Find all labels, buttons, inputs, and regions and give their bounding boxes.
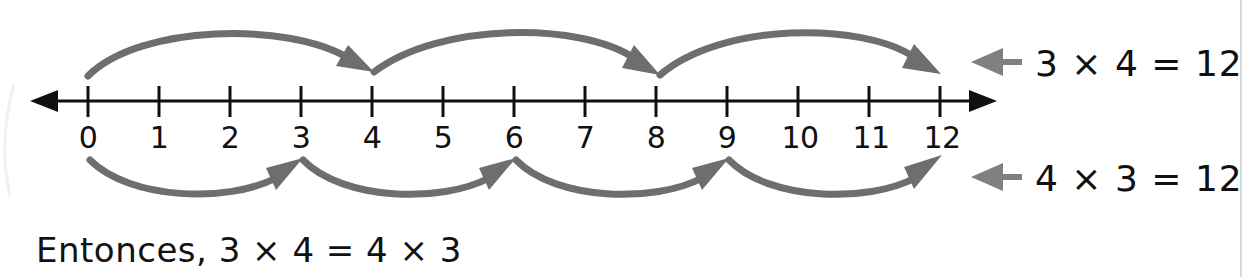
arc-path xyxy=(729,160,915,194)
tick-label-11: 11 xyxy=(852,120,889,155)
arc-path xyxy=(303,160,489,194)
arc-path xyxy=(374,33,634,72)
top-equation-text: 3 × 4 = 12 xyxy=(1035,43,1243,84)
caption: Entonces, 3 × 4 = 4 × 3 xyxy=(36,230,462,270)
tick-label-4: 4 xyxy=(363,120,382,155)
tick-label-10: 10 xyxy=(781,120,818,155)
bottom-jump-arc-1 xyxy=(90,158,303,194)
scan-artifact xyxy=(5,84,14,196)
arc-path xyxy=(516,160,702,194)
top-label-arrow-left-icon xyxy=(971,48,1022,76)
bottom-jump-arc-4 xyxy=(729,155,942,194)
top-jump-arc-3 xyxy=(660,33,941,75)
figure-page: 0 1 2 3 4 5 6 7 8 9 10 11 12 xyxy=(0,0,1257,277)
tick-label-3: 3 xyxy=(292,120,311,155)
arrow-head xyxy=(971,48,1003,76)
tick-label-1: 1 xyxy=(150,120,169,155)
arc-arrowhead-icon xyxy=(266,158,303,190)
bottom-label-arrow-left-icon xyxy=(971,163,1022,191)
arc-path xyxy=(90,160,276,194)
tick-label-8: 8 xyxy=(647,120,666,155)
axis-tick-labels: 0 1 2 3 4 5 6 7 8 9 10 11 12 xyxy=(79,120,961,155)
top-jump-arcs xyxy=(88,33,941,76)
arc-path xyxy=(660,33,914,75)
top-equation-label: 3 × 4 = 12 xyxy=(971,43,1243,84)
number-line-figure: 0 1 2 3 4 5 6 7 8 9 10 11 12 xyxy=(0,0,1257,277)
bottom-jump-arc-2 xyxy=(303,158,516,194)
top-jump-arc-1 xyxy=(88,34,374,76)
arc-arrowhead-icon xyxy=(622,45,660,75)
arc-arrowhead-icon xyxy=(902,44,941,74)
tick-label-6: 6 xyxy=(505,120,524,155)
tick-label-0: 0 xyxy=(79,120,98,155)
arc-arrowhead-icon xyxy=(479,158,516,190)
arc-arrowhead-icon xyxy=(336,45,374,72)
tick-label-2: 2 xyxy=(221,120,240,155)
tick-label-7: 7 xyxy=(576,120,595,155)
number-line-axis: 0 1 2 3 4 5 6 7 8 9 10 11 12 xyxy=(30,86,997,155)
axis-arrow-right-icon xyxy=(969,90,997,112)
bottom-jump-arcs xyxy=(90,155,942,194)
arc-path xyxy=(88,34,348,76)
arc-arrowhead-icon xyxy=(692,158,729,190)
top-jump-arc-2 xyxy=(374,33,660,75)
tick-label-12: 12 xyxy=(923,120,960,155)
tick-label-9: 9 xyxy=(718,120,737,155)
arrow-head xyxy=(971,163,1003,191)
axis-arrow-left-icon xyxy=(30,90,58,112)
bottom-equation-label: 4 × 3 = 12 xyxy=(971,158,1243,199)
bottom-equation-text: 4 × 3 = 12 xyxy=(1035,158,1243,199)
bottom-jump-arc-3 xyxy=(516,158,729,194)
tick-label-5: 5 xyxy=(434,120,453,155)
